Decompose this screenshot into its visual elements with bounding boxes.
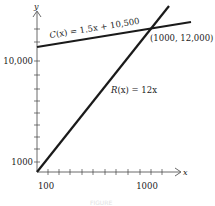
x-tick-label-1000: 1000 <box>136 181 158 191</box>
x-tick-label-100: 100 <box>38 181 54 191</box>
y-tick-label-1000: 1000 <box>11 157 33 167</box>
y-axis-label: y <box>33 2 39 11</box>
cost-function-formula: (x) = 1.5x + 10,500 <box>55 16 140 39</box>
y-tick-label-10000: 10,000 <box>3 56 33 66</box>
figure-caption: FIGURE <box>90 199 112 206</box>
cost-function-label: C(x) = 1.5x + 10,500 <box>49 16 140 40</box>
revenue-function-formula: (x) = 12x <box>117 85 157 95</box>
revenue-function-label: R(x) = 12x <box>110 85 157 95</box>
x-axis-label: x <box>183 168 188 177</box>
x-axis: x 100 1000 <box>37 168 188 191</box>
intersection-label: (1000, 12,000) <box>150 33 213 43</box>
cost-revenue-chart: y 10,000 1000 x 100 1000 C(x) = 1.5x + 1… <box>0 0 215 206</box>
y-axis: y 10,000 1000 <box>3 2 41 172</box>
